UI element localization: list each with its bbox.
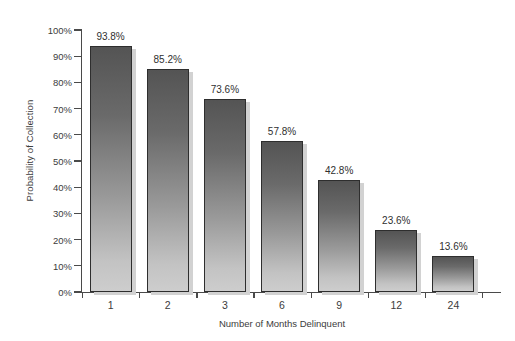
x-axis-tick [196,292,197,298]
x-axis-tick [139,292,140,298]
x-axis-tick [425,292,426,298]
y-axis-tick [74,108,81,109]
y-axis-tick [74,213,81,214]
bar-3[interactable] [204,99,246,292]
y-axis-tick-label: 100% [34,25,72,36]
x-axis-tick-label: 9 [336,299,342,311]
x-axis-tick [82,292,83,298]
bar-24[interactable] [432,256,474,292]
y-axis-tick-label: 40% [34,182,72,193]
y-axis-tick [74,56,81,57]
bar-2[interactable] [147,69,189,292]
y-axis-tick [74,239,81,240]
y-axis-tick-label: 60% [34,129,72,140]
y-axis-tick [74,187,81,188]
x-axis-tick-label: 12 [390,299,402,311]
y-axis-tick-label: 70% [34,103,72,114]
y-axis-tick [74,291,81,292]
x-axis-tick-label: 6 [279,299,285,311]
bar-value-label: 13.6% [439,241,467,252]
x-axis-tick-label: 2 [165,299,171,311]
x-axis-tick [368,292,369,298]
y-axis-tick-label: 20% [34,234,72,245]
y-axis-tick [74,82,81,83]
bar-chart: Probability of Collection 0%10%20%30%40%… [0,0,515,341]
bar-value-label: 93.8% [96,31,124,42]
x-axis-tick [482,292,483,298]
y-axis-labels: 0%10%20%30%40%50%60%70%80%90%100% [28,0,72,341]
bar-value-label: 23.6% [382,215,410,226]
y-axis-tick-label: 80% [34,77,72,88]
y-axis-tick [74,265,81,266]
y-axis-tick [74,29,81,30]
bar-9[interactable] [318,180,360,292]
x-axis-title: Number of Months Delinquent [82,318,482,329]
x-axis-tick [311,292,312,298]
bar-value-label: 73.6% [211,84,239,95]
y-axis-tick-label: 50% [34,156,72,167]
bar-12[interactable] [375,230,417,292]
y-axis-tick-label: 90% [34,51,72,62]
y-axis-tick [74,134,81,135]
y-axis-tick [74,160,81,161]
plot-area [82,30,482,292]
bar-value-label: 85.2% [154,54,182,65]
x-axis-tick [253,292,254,298]
y-axis-tick-label: 0% [34,287,72,298]
y-axis-tick-label: 30% [34,208,72,219]
x-axis-tick-label: 24 [448,299,460,311]
bar-6[interactable] [261,141,303,292]
bar-1[interactable] [90,46,132,292]
bar-value-label: 42.8% [325,165,353,176]
bar-value-label: 57.8% [268,126,296,137]
x-axis-tick-label: 1 [108,299,114,311]
y-axis-tick-label: 10% [34,260,72,271]
x-axis-tick-label: 3 [222,299,228,311]
